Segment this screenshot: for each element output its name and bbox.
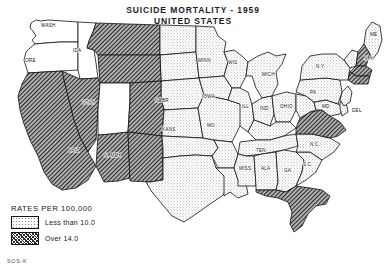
legend-heading: RATES PER 100,000 (11, 204, 95, 213)
label-utah: UTAH (82, 100, 95, 105)
state-colorado[interactable] (128, 81, 164, 136)
label-nebr: NEBR (155, 98, 169, 103)
state-wyoming[interactable] (98, 55, 161, 83)
label-mo: MO (207, 123, 215, 128)
source-code-text: SOS-K (7, 258, 27, 264)
label-me: ME (370, 32, 377, 37)
label-sc: S.C. (303, 162, 313, 167)
label-wash: WASH (41, 23, 56, 28)
state-alabama[interactable] (254, 152, 278, 190)
label-ala: ALA (261, 166, 271, 171)
map-legend: RATES PER 100,000 Less than 10.0 Over 14… (11, 204, 95, 248)
label-kans: KANS (162, 127, 176, 132)
legend-item-high[interactable]: Over 14.0 (11, 232, 95, 245)
state-minnesota[interactable] (196, 26, 228, 78)
label-ariz: ARIZ (68, 148, 79, 153)
state-new-mexico[interactable] (128, 132, 163, 182)
state-kansas[interactable] (162, 108, 203, 138)
label-ten: TEN (256, 148, 266, 153)
label-nh: N.H. (364, 56, 374, 61)
label-minn: MINN (198, 58, 211, 63)
label-md: MD (322, 104, 330, 109)
label-nmex: N. MEX (104, 153, 121, 158)
label-miss: MISS (239, 166, 251, 171)
legend-label-low: Less than 10.0 (45, 219, 95, 226)
label-mich: MICH (262, 72, 275, 77)
legend-swatch-low (11, 216, 39, 229)
label-ind: IND (260, 106, 269, 111)
suicide-mortality-map-figure: SUICIDE MORTALITY - 1959 UNITED STATES (0, 0, 386, 272)
legend-label-high: Over 14.0 (45, 235, 78, 242)
legend-swatch-high (11, 232, 39, 245)
label-ga: GA (284, 168, 292, 173)
label-ny: N.Y. (316, 64, 325, 69)
state-nebraska[interactable] (161, 78, 204, 110)
label-ida: IDA (73, 48, 82, 53)
state-arkansas[interactable] (212, 140, 238, 168)
label-ill: ILL (242, 104, 249, 109)
label-ohio: OHIO (280, 104, 293, 109)
state-utah[interactable] (98, 83, 130, 135)
label-iowa: IOWA (202, 94, 216, 99)
label-nc: N.C. (310, 142, 320, 147)
state-florida[interactable] (256, 186, 330, 232)
label-del: DEL (352, 108, 362, 113)
label-wis: WIS (228, 60, 237, 65)
state-south-dakota[interactable] (160, 52, 199, 81)
state-north-dakota[interactable] (160, 25, 196, 55)
label-pa: PA (310, 90, 317, 95)
state-montana[interactable] (87, 23, 160, 55)
label-ore: ORE (25, 58, 36, 63)
legend-item-low[interactable]: Less than 10.0 (11, 216, 95, 229)
